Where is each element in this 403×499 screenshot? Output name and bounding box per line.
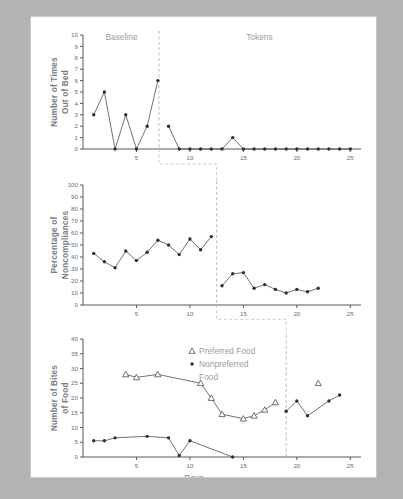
series-line-2 (286, 395, 339, 416)
chart-panel-3: 0510152025303540510152025Number of Bites… (50, 335, 361, 477)
data-marker-dot (263, 147, 266, 150)
data-marker-dot (199, 248, 202, 251)
y-tick-label: 60 (71, 229, 78, 236)
y-tick-label: 10 (71, 289, 78, 296)
series-line-2 (94, 436, 233, 457)
panel-connector-2 (217, 305, 287, 335)
data-marker-dot (135, 147, 138, 150)
data-marker-dot (295, 288, 298, 291)
data-marker-triangle (155, 371, 161, 377)
data-marker-dot (188, 439, 191, 442)
x-tick-label: 25 (347, 154, 354, 161)
data-marker-dot (349, 147, 352, 150)
y-tick-label: 10 (71, 424, 78, 431)
x-tick-label: 15 (240, 154, 247, 161)
data-marker-dot (242, 271, 245, 274)
y-tick-label: 20 (71, 277, 78, 284)
y-tick-label: 40 (71, 253, 78, 260)
y-tick-label: 30 (71, 265, 78, 272)
y-axis-title: Out of Bed (61, 70, 70, 114)
x-tick-label: 15 (240, 462, 247, 469)
data-marker-dot (327, 399, 330, 402)
data-marker-dot (231, 455, 234, 458)
legend-marker-nonpreferred (190, 362, 193, 365)
chart-panel-2: 0102030405060708090100510152025Percentag… (50, 181, 361, 317)
series-line-1 (169, 126, 351, 149)
data-marker-dot (210, 147, 213, 150)
y-tick-label: 100 (68, 181, 79, 188)
x-tick-label: 20 (293, 462, 300, 469)
x-tick-label: 5 (135, 310, 139, 317)
data-marker-dot (220, 147, 223, 150)
panel-3-axes (83, 339, 361, 457)
data-marker-dot (124, 249, 127, 252)
x-axis-title: Days (184, 473, 204, 477)
x-tick-label: 20 (293, 310, 300, 317)
data-marker-dot (113, 266, 116, 269)
y-tick-label: 70 (71, 217, 78, 224)
data-marker-dot (103, 260, 106, 263)
data-marker-dot (263, 283, 266, 286)
y-tick-label: 5 (75, 88, 79, 95)
phase-label: Tokens (246, 32, 273, 42)
data-marker-dot (284, 410, 287, 413)
data-marker-triangle (251, 413, 257, 419)
phase-label: Baseline (105, 32, 137, 42)
data-marker-dot (317, 147, 320, 150)
y-tick-label: 10 (71, 31, 78, 38)
data-marker-dot (135, 259, 138, 262)
series-line-1 (94, 237, 212, 268)
y-tick-label: 0 (75, 145, 79, 152)
data-marker-dot (167, 125, 170, 128)
data-marker-dot (231, 272, 234, 275)
y-axis-title: Number of Times (50, 57, 59, 127)
data-marker-dot (178, 454, 181, 457)
data-marker-dot (252, 287, 255, 290)
x-tick-label: 5 (135, 462, 139, 469)
y-axis-title: Number of Bites (50, 365, 59, 431)
data-marker-dot (306, 414, 309, 417)
y-tick-label: 35 (71, 350, 78, 357)
data-marker-dot (274, 147, 277, 150)
legend-label-nonpreferred-2: Food (199, 372, 218, 382)
data-marker-dot (242, 147, 245, 150)
data-marker-dot (167, 243, 170, 246)
x-tick-label: 25 (347, 462, 354, 469)
data-marker-dot (306, 290, 309, 293)
data-marker-triangle (262, 407, 268, 413)
y-tick-label: 6 (75, 77, 79, 84)
data-marker-dot (145, 125, 148, 128)
y-tick-label: 20 (71, 394, 78, 401)
y-tick-label: 9 (75, 43, 79, 50)
data-marker-dot (178, 147, 181, 150)
x-tick-label: 15 (240, 310, 247, 317)
y-axis-title: Noncompliances (61, 211, 70, 280)
multi-panel-chart: 012345678910510152025BaselineTokensNumbe… (31, 17, 376, 477)
y-tick-label: 5 (75, 438, 79, 445)
data-marker-dot (284, 291, 287, 294)
series-line-1 (222, 273, 318, 293)
y-tick-label: 2 (75, 122, 79, 129)
data-marker-dot (252, 147, 255, 150)
y-tick-label: 0 (75, 453, 79, 460)
data-marker-dot (145, 435, 148, 438)
data-marker-dot (103, 90, 106, 93)
legend-marker-preferred (189, 348, 195, 354)
data-marker-dot (327, 147, 330, 150)
y-tick-label: 50 (71, 241, 78, 248)
y-axis-title: of Food (61, 382, 70, 413)
data-marker-dot (178, 253, 181, 256)
y-tick-label: 1 (75, 134, 79, 141)
panel-1-axes (83, 35, 361, 149)
data-marker-dot (306, 147, 309, 150)
data-marker-triangle (123, 371, 129, 377)
x-tick-label: 25 (347, 310, 354, 317)
data-marker-dot (199, 147, 202, 150)
x-tick-label: 10 (186, 310, 193, 317)
data-marker-dot (274, 288, 277, 291)
legend-label-preferred: Preferred Food (199, 346, 256, 356)
data-marker-dot (295, 399, 298, 402)
y-tick-label: 15 (71, 409, 78, 416)
x-tick-label: 10 (186, 154, 193, 161)
data-marker-dot (92, 439, 95, 442)
